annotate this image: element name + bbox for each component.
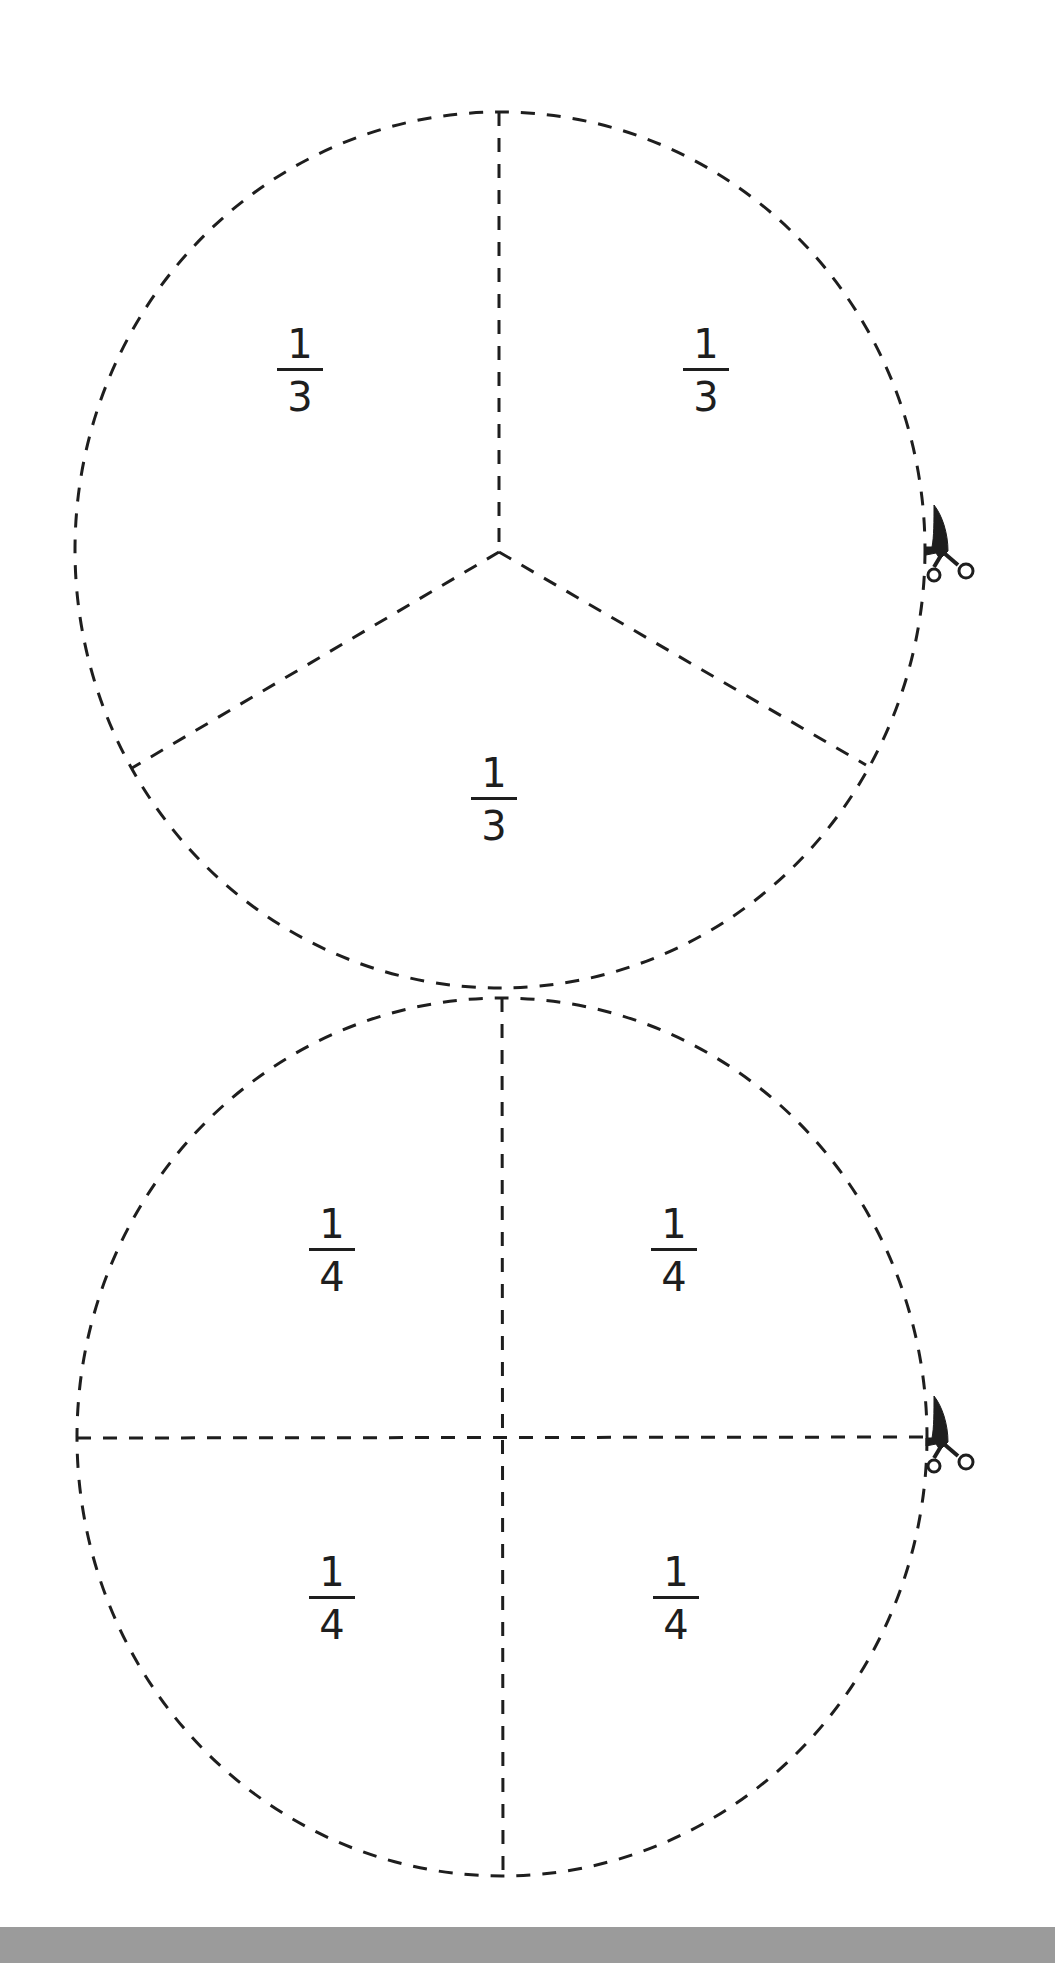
denominator: 4 (292, 1603, 372, 1647)
numerator: 1 (292, 1550, 372, 1594)
fraction-label-quarters-top-right: 1 4 (634, 1202, 714, 1299)
numerator: 1 (260, 322, 340, 366)
quarters-divider-horizontal (77, 1437, 927, 1438)
denominator: 4 (292, 1255, 372, 1299)
denominator: 3 (454, 804, 534, 848)
bottom-gray-band (0, 1927, 1055, 1963)
fraction-bar (683, 368, 729, 371)
fraction-bar (277, 368, 323, 371)
fraction-label-thirds-top-right: 1 3 (666, 322, 746, 419)
fraction-label-quarters-bottom-left: 1 4 (292, 1550, 372, 1647)
numerator: 1 (454, 751, 534, 795)
numerator: 1 (634, 1202, 714, 1246)
denominator: 4 (636, 1603, 716, 1647)
denominator: 4 (634, 1255, 714, 1299)
denominator: 3 (666, 375, 746, 419)
denominator: 3 (260, 375, 340, 419)
fraction-label-quarters-bottom-right: 1 4 (636, 1550, 716, 1647)
fraction-cutout-sheet: 1 3 1 3 1 3 1 4 1 4 1 4 1 4 (0, 0, 1055, 1963)
fraction-label-thirds-bottom: 1 3 (454, 751, 534, 848)
fraction-label-quarters-top-left: 1 4 (292, 1202, 372, 1299)
scissors-icon (918, 1394, 988, 1474)
thirds-divider-left (132, 552, 499, 768)
fraction-bar (651, 1248, 697, 1251)
fraction-bar (471, 797, 517, 800)
numerator: 1 (666, 322, 746, 366)
numerator: 1 (636, 1550, 716, 1594)
cut-lines (0, 0, 1055, 1963)
fraction-label-thirds-top-left: 1 3 (260, 322, 340, 419)
fraction-bar (653, 1596, 699, 1599)
scissors-icon (918, 503, 988, 583)
thirds-divider-right (499, 552, 866, 765)
numerator: 1 (292, 1202, 372, 1246)
fraction-bar (309, 1596, 355, 1599)
fraction-bar (309, 1248, 355, 1251)
